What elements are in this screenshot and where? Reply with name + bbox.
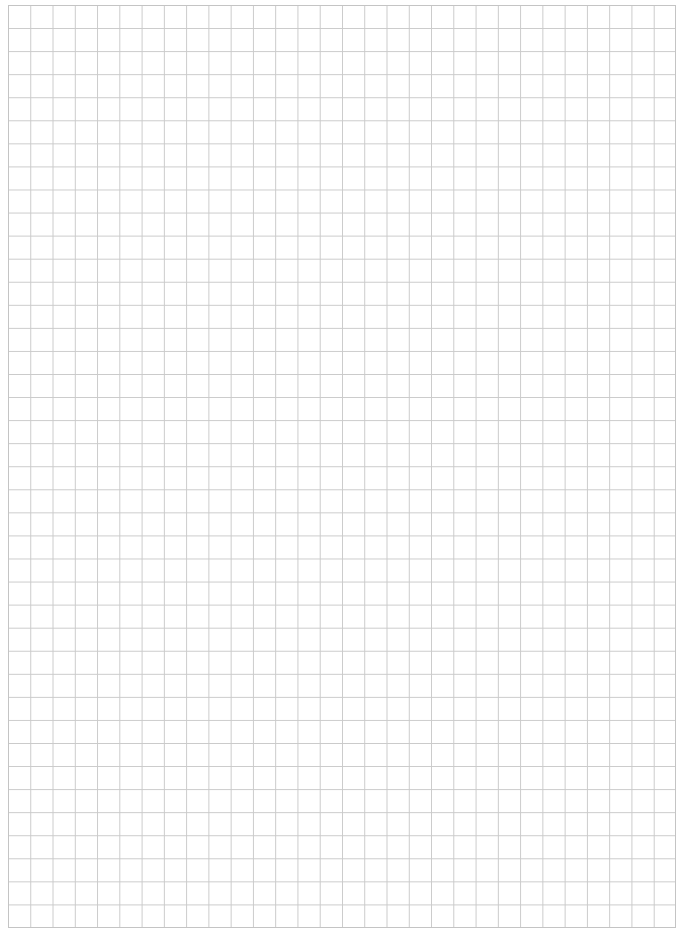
grid-paper [8,5,676,928]
